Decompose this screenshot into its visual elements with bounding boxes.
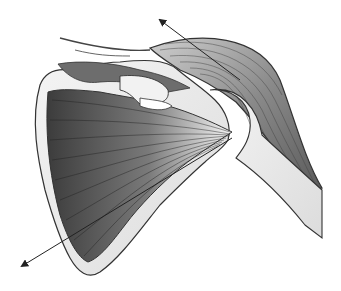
shoulder-anatomy-svg: [0, 0, 341, 291]
clavicle: [60, 38, 150, 56]
anatomy-illustration: [0, 0, 341, 291]
